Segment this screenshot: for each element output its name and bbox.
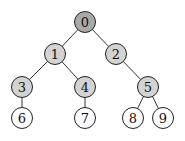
node-label: 5 xyxy=(144,80,152,95)
tree-node-1: 1 xyxy=(45,44,66,65)
tree-node-8: 8 xyxy=(123,108,144,129)
tree-node-2: 2 xyxy=(106,44,127,65)
node-label: 4 xyxy=(81,80,89,95)
tree-node-0: 0 xyxy=(75,12,96,33)
node-label: 7 xyxy=(81,111,89,126)
tree-edges xyxy=(22,22,163,118)
node-label: 9 xyxy=(159,111,167,126)
node-label: 1 xyxy=(51,47,59,62)
tree-node-3: 3 xyxy=(12,77,33,98)
node-label: 3 xyxy=(18,80,26,95)
node-label: 6 xyxy=(18,111,26,126)
tree-node-7: 7 xyxy=(75,108,96,129)
tree-node-6: 6 xyxy=(12,108,33,129)
node-label: 2 xyxy=(112,47,120,62)
tree-nodes: 0123456789 xyxy=(12,12,174,129)
node-label: 0 xyxy=(81,15,89,30)
tree-node-9: 9 xyxy=(153,108,174,129)
tree-node-5: 5 xyxy=(138,77,159,98)
node-label: 8 xyxy=(129,111,137,126)
tree-node-4: 4 xyxy=(75,77,96,98)
tree-diagram: 0123456789 xyxy=(0,0,185,141)
